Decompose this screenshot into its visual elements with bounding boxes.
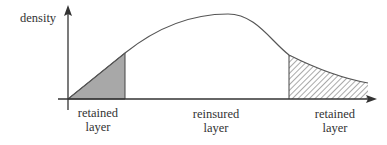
left-region-label-line2: layer	[66, 120, 130, 134]
left-region-label: retained layer	[66, 106, 130, 134]
middle-region-label: reinsured layer	[176, 107, 256, 135]
right-region-label: retained layer	[303, 107, 367, 135]
left-region-label-line1: retained	[66, 106, 130, 120]
right-retained-region	[289, 55, 368, 99]
middle-region-label-line2: layer	[176, 121, 256, 135]
y-axis-label: density	[20, 11, 56, 25]
middle-region-label-line1: reinsured	[176, 107, 256, 121]
right-region-label-line2: layer	[303, 121, 367, 135]
right-region-label-line1: retained	[303, 107, 367, 121]
